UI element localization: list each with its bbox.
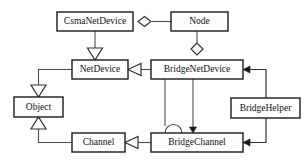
edge-bridgenetdevice-bridgechannel (190, 79, 197, 133)
class-box-object[interactable]: Object (14, 97, 63, 117)
diagram-canvas: CsmaNetDevice Node NetDevice BridgeNetDe… (0, 0, 308, 165)
class-label: CsmaNetDevice (64, 16, 126, 26)
edge-node-bridgenetdevice (191, 31, 203, 55)
edge-bridgehelper-bridgechannel (243, 118, 266, 146)
edge-bridgechannel-channel (125, 137, 151, 149)
edge-line (250, 70, 266, 99)
hollow-triangle-icon (31, 85, 46, 97)
uml-class-diagram: CsmaNetDevice Node NetDevice BridgeNetDe… (0, 0, 308, 165)
edge-bridgenetdevice-netdevice (128, 64, 151, 76)
solid-arrow-icon (190, 127, 197, 133)
edge-line (39, 70, 73, 86)
hollow-triangle-icon (31, 117, 46, 129)
class-label: Object (26, 102, 52, 112)
hollow-triangle-icon (88, 48, 103, 60)
class-label: BridgeNetDevice (164, 64, 230, 74)
arc-loop-icon (165, 125, 182, 134)
edge-line (250, 118, 266, 143)
class-label: Node (189, 16, 210, 26)
class-box-netdevice[interactable]: NetDevice (72, 60, 128, 79)
edge-line (39, 129, 73, 143)
class-box-bridgechannel[interactable]: BridgeChannel (151, 133, 243, 152)
hollow-triangle-icon (125, 137, 138, 149)
edge-csmanetdevice-netdevice (88, 31, 103, 60)
class-box-csmanetdevice[interactable]: CsmaNetDevice (57, 12, 133, 31)
hollow-diamond-icon (138, 17, 151, 27)
edge-bridgenetdevice-bridgechannel-arc (165, 79, 182, 133)
class-box-bridgenetdevice[interactable]: BridgeNetDevice (151, 60, 243, 79)
class-label: Channel (83, 137, 115, 147)
edge-netdevice-object (31, 70, 72, 98)
edge-bridgehelper-bridgenetdevice (243, 66, 266, 98)
class-label: BridgeHelper (240, 103, 293, 113)
class-box-bridgehelper[interactable]: BridgeHelper (231, 98, 300, 118)
edge-channel-object (31, 117, 72, 143)
hollow-diamond-icon (191, 43, 203, 55)
edge-node-csmanetdevice (138, 17, 171, 27)
solid-arrow-icon (243, 66, 250, 73)
solid-arrow-icon (243, 139, 250, 146)
class-box-channel[interactable]: Channel (72, 133, 125, 152)
class-label: BridgeChannel (168, 137, 226, 147)
hollow-triangle-icon (128, 64, 141, 76)
class-box-node[interactable]: Node (171, 12, 228, 31)
class-label: NetDevice (80, 64, 121, 74)
